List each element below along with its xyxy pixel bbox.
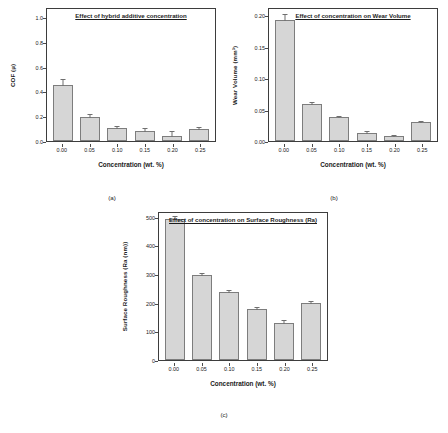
x-tick-label: 0.15 [243,363,271,375]
bar[interactable] [384,136,404,141]
error-bar-cap [391,135,396,136]
bar-series-b [269,9,437,141]
x-axis-ticks-c: 0.000.050.100.150.200.25 [158,363,328,375]
bar[interactable] [162,136,182,142]
bar[interactable] [53,85,73,141]
bar[interactable] [275,20,295,141]
y-tick-label: 200 [146,301,155,307]
bar[interactable] [219,292,239,360]
x-tick-label: 0.05 [76,144,104,156]
bar-slot [380,9,407,141]
chart-title-a: Effect of hybrid additive concentration [75,12,186,19]
y-tick-label: 0.6 [36,65,44,71]
bar[interactable] [135,131,155,141]
y-tick-label: 0.05 [255,108,266,114]
bar[interactable] [165,219,185,360]
y-tick-label: 0.2 [36,114,44,120]
error-bar-cap [364,131,369,132]
y-axis-label-c: Surface Roughness (Ra (nm)) [118,212,132,361]
x-tick-label: 0.10 [103,144,131,156]
error-bar-cap [87,114,92,115]
chart-panel-c: Surface Roughness (Ra (nm)) 010020030040… [118,212,330,427]
bar[interactable] [107,128,127,141]
y-tick-label: 1.0 [36,15,44,21]
bar[interactable] [357,133,377,141]
chart-area-a: COF (µ) 0.00.20.40.60.81.0 Effect of hyb… [6,8,218,172]
bar-slot [326,9,353,141]
panel-caption-a: (a) [6,194,218,208]
x-tick-label: 0.20 [159,144,187,156]
bar-series-a [47,9,215,141]
error-bar-cap [337,116,342,117]
x-tick-label: 0.05 [298,144,326,156]
error-bar-cap [169,131,174,132]
x-tick-label: 0.20 [381,144,409,156]
x-tick-label: 0.25 [186,144,214,156]
bar-series-c [159,213,327,360]
bar-slot [298,9,325,141]
x-tick-label: 0.00 [48,144,76,156]
y-tick-label: 0.4 [36,89,44,95]
x-tick-label: 0.15 [353,144,381,156]
error-bar [62,79,63,86]
x-axis-ticks-a: 0.000.050.100.150.200.25 [46,144,216,156]
panel-caption-b: (b) [228,194,440,208]
y-axis-label-text-c: Surface Roughness (Ra (nm)) [122,242,129,332]
y-axis-label-text-a: COF (µ) [10,63,17,86]
chart-area-c: Surface Roughness (Ra (nm)) 010020030040… [118,212,330,391]
bar-slot [76,9,103,141]
x-tick-label: 0.10 [215,363,243,375]
x-tick-label: 0.15 [131,144,159,156]
bar-slot [216,213,243,360]
bar[interactable] [329,117,349,141]
bar-slot [158,9,185,141]
x-tick-label: 0.20 [271,363,299,375]
bar[interactable] [189,129,209,141]
error-bar-cap [60,79,65,80]
y-tick-label: 0.0 [36,139,44,145]
plot-area-c: Effect of concentration on Surface Rough… [158,212,328,361]
chart-title-c: Effect of concentration on Surface Rough… [169,216,317,223]
error-bar-cap [419,121,424,122]
x-axis-label-a: Concentration (wt. %) [46,161,216,168]
y-tick-label: 0 [152,358,155,364]
error-bar-cap [115,126,120,127]
x-tick-label: 0.25 [408,144,436,156]
y-tick-label: 300 [146,272,155,278]
x-tick-label: 0.00 [270,144,298,156]
error-bar-cap [142,128,147,129]
bar[interactable] [301,303,321,360]
bar[interactable] [247,309,267,360]
y-tick-label: 0.00 [255,139,266,145]
y-tick-label: 0.15 [255,45,266,51]
bar-slot [186,9,213,141]
error-bar-cap [254,307,259,308]
bar[interactable] [192,275,212,360]
y-tick-label: 0.10 [255,76,266,82]
bar[interactable] [274,323,294,360]
y-tick-label: 0.8 [36,40,44,46]
x-tick-label: 0.10 [325,144,353,156]
bar-slot [408,9,435,141]
error-bar-cap [197,127,202,128]
bar[interactable] [302,104,322,141]
bar-slot [131,9,158,141]
panel-caption-c: (c) [118,411,330,425]
chart-panel-b: Wear Volume (mm³) 0.000.050.100.150.20 E… [228,8,440,208]
y-axis-ticks-b: 0.000.050.100.150.20 [242,8,268,142]
bar-slot [188,213,215,360]
x-tick-label: 0.25 [298,363,326,375]
x-axis-label-b: Concentration (wt. %) [268,161,438,168]
bar[interactable] [80,117,100,141]
x-tick-label: 0.00 [160,363,188,375]
y-axis-ticks-c: 0100200300400500 [132,212,158,361]
y-axis-label-text-b: Wear Volume (mm³) [232,45,239,104]
bar-slot [104,9,131,141]
y-tick-label: 500 [146,215,155,221]
y-axis-label-b: Wear Volume (mm³) [228,8,242,142]
bar[interactable] [411,122,431,141]
y-tick-label: 400 [146,243,155,249]
x-tick-label: 0.05 [188,363,216,375]
bar-slot [271,9,298,141]
error-bar-cap [227,290,232,291]
